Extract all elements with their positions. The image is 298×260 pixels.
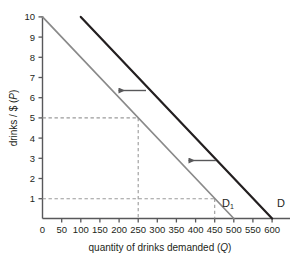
x-tick-label-200: 200 xyxy=(111,224,127,235)
curve-label-D1-subscript: 1 xyxy=(230,203,234,210)
curve-label-D1: D1 xyxy=(222,197,234,211)
x-axis-title-main: quantity of drinks demanded ( xyxy=(89,242,221,253)
x-tick-label-50: 50 xyxy=(56,224,67,235)
y-tick-label-1: 1 xyxy=(30,193,35,204)
x-tick-label-150: 150 xyxy=(92,224,108,235)
y-axis-title: drinks / $ (P) xyxy=(8,90,19,147)
x-tick-label-400: 400 xyxy=(188,224,204,235)
x-tick-label-0: 0 xyxy=(40,224,45,235)
x-axis-title: quantity of drinks demanded (Q) xyxy=(89,242,232,253)
y-tick-label-5: 5 xyxy=(30,112,35,123)
curve-label-D: D xyxy=(277,197,285,209)
y-axis-title-main: drinks / $ ( xyxy=(8,99,19,146)
x-tick-label-500: 500 xyxy=(226,224,242,235)
y-tick-label-2: 2 xyxy=(30,173,35,184)
x-tick-label-250: 250 xyxy=(130,224,146,235)
y-tick-label-9: 9 xyxy=(30,32,35,43)
x-tick-label-600: 600 xyxy=(264,224,280,235)
y-tick-label-10: 10 xyxy=(24,11,35,22)
shift-arrows xyxy=(119,91,217,161)
y-tick-label-3: 3 xyxy=(30,153,35,164)
y-axis-tick-labels: 1 2 3 4 5 6 7 8 9 10 xyxy=(24,11,35,204)
curve-label-D1-text: D xyxy=(222,197,230,209)
y-tick-label-6: 6 xyxy=(30,92,35,103)
axis-lines xyxy=(43,16,291,219)
chart-container: 1 2 3 4 5 6 7 8 9 10 0 xyxy=(0,0,298,260)
demand-curve-chart: 1 2 3 4 5 6 7 8 9 10 0 xyxy=(0,0,298,260)
demand-curve-D1[interactable] xyxy=(43,17,234,219)
guide-lines xyxy=(43,118,215,219)
y-axis-title-close: ) xyxy=(8,90,19,93)
x-axis-title-close: ) xyxy=(228,242,231,253)
x-tick-label-550: 550 xyxy=(245,224,261,235)
x-axis-tick-labels: 0 50 100 150 200 250 300 350 400 450 500… xyxy=(40,224,280,235)
x-tick-label-350: 350 xyxy=(168,224,184,235)
y-tick-label-4: 4 xyxy=(30,133,35,144)
demand-curves xyxy=(43,17,273,219)
x-tick-label-450: 450 xyxy=(207,224,223,235)
y-tick-label-7: 7 xyxy=(30,72,35,83)
x-tick-label-100: 100 xyxy=(73,224,89,235)
y-tick-label-8: 8 xyxy=(30,52,35,63)
x-tick-label-300: 300 xyxy=(149,224,165,235)
